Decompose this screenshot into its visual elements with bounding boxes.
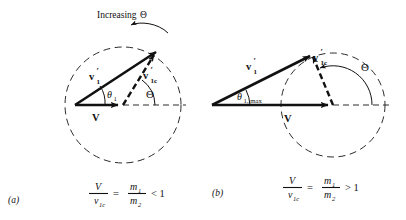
panel-b-label-theta1max-symbol: θ [237,91,242,102]
increasing-theta-label: IncreasingΘ [97,10,147,20]
panel-a-eq-num-left: V [95,181,103,192]
panel-b-label: (b) [212,188,223,199]
increasing-theta-arrow [131,23,168,33]
panel-b-label-v1c-prime-mark: ′ [321,47,324,57]
panel-b-label-v1-prime-mark: ′ [254,56,257,66]
panel-a-eq-equals: = [113,188,119,199]
panel-b-label-v1c-prime-sub: 1c [321,59,328,67]
panel-b-label-V: V [284,113,292,124]
panel-a-label-v1-prime-sub: 1 [97,78,101,86]
panel-a-label-v1-prime: v ′ 1 [89,66,101,86]
increasing-theta-annotation: IncreasingΘ [97,10,168,33]
panel-a: V v ′ 1 v ′ 1c θ 1 Θ (a) V v 1c = [8,47,186,208]
panel-b-label-v1c-prime: v ′ 1c [313,47,327,67]
panel-b-eq-den-right: m [324,189,331,200]
panel-b-label-v1-prime-base: v [246,61,252,72]
panel-a-equation: V v 1c = m 1 m 2 < 1 [89,181,165,208]
panel-b-label-v1c-prime-base: v [313,52,319,63]
panel-b-eq-relation: > 1 [345,182,359,193]
panel-b-label-v1-prime-sub: 1 [254,68,258,76]
panel-a-eq-den-left-sub: 1c [99,201,105,208]
panel-a-label-v1c-prime-base: v [143,70,149,81]
panel-b-eq-den-right-sub: 2 [332,195,336,202]
panel-b-eq-den-left-sub: 1c [293,195,299,202]
panel-a-label-v1c-prime-sub: 1c [151,77,158,85]
panel-a-label-theta1: θ 1 [107,89,117,102]
panel-b: V v ′ 1 v ′ 1c θ 1, max Θ (b) V v 1c = [212,47,390,202]
panel-a-label: (a) [8,195,19,206]
panel-b-label-theta-cm: Θ [361,61,369,73]
panel-a-label-v1c-prime-mark: ′ [151,65,154,75]
panel-b-eq-num-right: m [324,175,331,186]
panel-b-label-v1-prime: v ′ 1 [246,56,258,76]
panel-a-eq-num-right-sub: 1 [138,187,141,194]
panel-b-eq-num-left: V [289,175,297,186]
panel-b-eq-num-right-sub: 1 [332,181,335,188]
panel-a-label-theta1-sub: 1 [114,95,117,102]
figure-canvas: IncreasingΘ V v ′ 1 v ′ 1c [0,0,406,220]
panel-a-eq-den-right-sub: 2 [138,201,142,208]
panel-a-label-V: V [92,112,100,123]
panel-b-label-theta1max: θ 1, max [237,91,263,104]
panel-b-label-theta1max-sub: 1, max [244,97,263,104]
velocity-vector-figure: IncreasingΘ V v ′ 1 v ′ 1c [0,0,406,220]
panel-a-label-v1-prime-mark: ′ [97,66,100,76]
panel-a-eq-den-right: m [130,195,137,206]
panel-a-eq-relation: < 1 [151,188,165,199]
panel-a-label-theta-cm: Θ [146,88,154,100]
panel-a-eq-num-right: m [130,181,137,192]
panel-b-eq-equals: = [307,182,313,193]
panel-a-label-theta1-symbol: θ [107,89,112,100]
panel-b-equation: V v 1c = m 1 m 2 > 1 [283,175,359,202]
panel-a-label-v1-prime-base: v [89,71,95,82]
